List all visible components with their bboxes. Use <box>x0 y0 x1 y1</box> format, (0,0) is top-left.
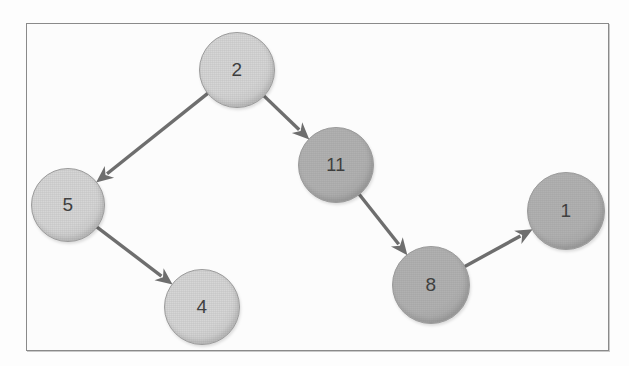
figure-root: 2511481 <box>0 0 629 366</box>
graph-node-5[interactable]: 5 <box>31 168 105 242</box>
graph-node-label: 5 <box>62 194 73 216</box>
graph-node-11[interactable]: 11 <box>298 127 374 203</box>
graph-node-4[interactable]: 4 <box>164 269 240 345</box>
graph-node-label: 8 <box>425 274 436 296</box>
graph-node-8[interactable]: 8 <box>392 246 470 324</box>
graph-node-label: 11 <box>326 155 346 176</box>
graph-node-label: 1 <box>560 200 571 222</box>
graph-node-2[interactable]: 2 <box>199 32 275 108</box>
graph-node-1[interactable]: 1 <box>527 172 605 250</box>
graph-node-label: 4 <box>196 296 207 318</box>
graph-node-label: 2 <box>231 59 242 81</box>
